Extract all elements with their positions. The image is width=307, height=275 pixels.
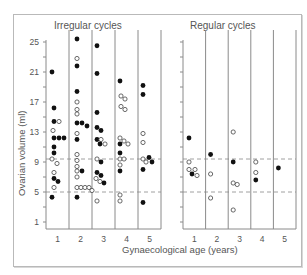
data-point-open <box>123 107 127 111</box>
y-tick-label: 25 <box>30 37 40 47</box>
data-point-open <box>51 128 55 132</box>
data-point-open <box>119 94 123 98</box>
data-point-filled <box>98 142 103 147</box>
data-point-filled <box>190 172 195 177</box>
data-point-open <box>118 136 122 140</box>
data-point-filled <box>118 79 123 84</box>
data-point-filled <box>75 195 80 200</box>
data-point-open <box>55 161 59 165</box>
data-point-open <box>50 157 54 161</box>
x-tick-label: 5 <box>147 234 152 244</box>
data-point-filled <box>52 151 57 156</box>
x-tick-label: 4 <box>260 234 265 244</box>
data-point-filled <box>231 160 236 165</box>
data-point-open <box>83 185 87 189</box>
y-tick-label: 1 <box>34 217 39 227</box>
data-point-open <box>98 179 102 183</box>
data-point-open <box>75 56 79 60</box>
y-tick-label: 21 <box>30 67 40 77</box>
data-point-open <box>123 97 127 101</box>
data-point-open <box>231 208 235 212</box>
y-tick-label: 5 <box>34 187 39 197</box>
data-point-filled <box>50 70 55 75</box>
data-point-open <box>99 137 103 141</box>
data-point-filled <box>80 169 85 174</box>
data-point-filled <box>150 160 155 165</box>
data-point-open <box>118 157 122 161</box>
data-point-open <box>75 175 79 179</box>
data-point-filled <box>95 110 100 115</box>
data-point-open <box>187 160 191 164</box>
data-point-open <box>75 169 79 173</box>
data-point-filled <box>75 64 80 69</box>
x-tick-label: 3 <box>101 234 106 244</box>
data-point-open <box>209 196 213 200</box>
data-point-filled <box>118 169 123 174</box>
data-point-filled <box>52 106 57 111</box>
data-point-open <box>75 164 79 168</box>
data-point-filled <box>57 136 62 141</box>
data-point-filled <box>187 136 192 141</box>
data-point-open <box>254 160 258 164</box>
data-point-filled <box>75 37 80 42</box>
data-point-open <box>141 140 145 144</box>
data-point-open <box>57 119 61 123</box>
data-point-filled <box>62 136 67 141</box>
x-tick-label: 4 <box>124 234 129 244</box>
data-point-open <box>119 104 123 108</box>
data-point-open <box>209 172 213 176</box>
data-point-filled <box>95 71 100 76</box>
data-point-filled <box>56 179 61 184</box>
x-tick-label: 5 <box>282 234 287 244</box>
data-point-filled <box>118 151 123 156</box>
data-point-open <box>75 112 79 116</box>
data-point-open <box>75 158 79 162</box>
data-point-open <box>122 157 126 161</box>
data-point-filled <box>75 89 80 94</box>
scatter-plot: 159131721251234512345 <box>0 0 307 275</box>
data-point-filled <box>141 167 146 172</box>
data-point-open <box>187 167 191 171</box>
data-point-open <box>95 199 99 203</box>
data-point-open <box>254 170 258 174</box>
data-point-filled <box>85 124 90 129</box>
y-tick-label: 13 <box>30 127 40 137</box>
data-point-open <box>235 182 239 186</box>
data-point-open <box>94 176 98 180</box>
data-point-open <box>195 173 199 177</box>
data-point-open <box>75 131 79 135</box>
x-tick-label: 2 <box>78 234 83 244</box>
data-point-filled <box>102 181 107 186</box>
data-point-open <box>90 188 94 192</box>
data-point-open <box>126 142 130 146</box>
data-point-open <box>231 181 235 185</box>
data-point-open <box>118 193 122 197</box>
data-point-open <box>79 185 83 189</box>
data-point-filled <box>118 142 123 147</box>
data-point-filled <box>52 119 57 124</box>
data-point-filled <box>50 195 55 200</box>
data-point-filled <box>208 152 213 157</box>
data-point-filled <box>99 173 104 178</box>
data-point-filled <box>95 125 100 130</box>
data-point-open <box>144 160 148 164</box>
data-point-open <box>118 163 122 167</box>
data-point-filled <box>52 136 57 141</box>
data-point-filled <box>80 121 85 126</box>
data-point-filled <box>147 155 152 160</box>
data-point-filled <box>141 83 146 88</box>
data-point-open <box>103 142 107 146</box>
data-point-open <box>141 131 145 135</box>
data-point-open <box>122 139 126 143</box>
data-point-open <box>231 130 235 134</box>
data-point-filled <box>95 170 100 175</box>
data-point-filled <box>141 200 146 205</box>
data-point-filled <box>276 166 281 171</box>
data-point-filled <box>75 121 80 126</box>
data-point-filled <box>75 137 80 142</box>
data-point-filled <box>253 178 258 183</box>
data-point-filled <box>52 176 57 181</box>
data-point-filled <box>99 160 104 165</box>
x-tick-label: 1 <box>192 234 197 244</box>
x-tick-label: 3 <box>237 234 242 244</box>
